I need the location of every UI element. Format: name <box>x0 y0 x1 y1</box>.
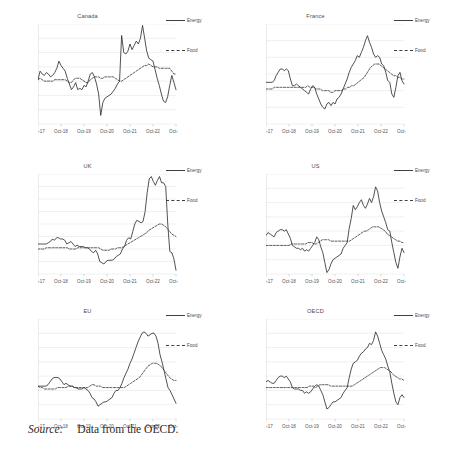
legend-solid-line-icon <box>166 315 185 316</box>
x-axis-tick-label: Oct-17 <box>266 424 273 429</box>
series-line-food <box>266 368 404 388</box>
x-axis-tick-label: Oct-23 <box>169 129 178 134</box>
legend-label-food: Food <box>415 198 425 203</box>
x-axis-tick-label: Oct-23 <box>169 279 178 284</box>
chart-title: UK <box>0 163 175 169</box>
x-axis-tick-label: Oct-17 <box>266 279 273 284</box>
legend-dashed-line-icon <box>394 345 413 346</box>
chart-panel-eu: EU 50403020100-10-20Oct-17Oct-18Oct-19Oc… <box>0 295 228 410</box>
legend-dashed-line-icon <box>394 50 413 51</box>
x-axis-tick-label: Oct-19 <box>305 424 319 429</box>
x-axis-tick-label: Oct-18 <box>54 129 68 134</box>
x-axis-tick-label: Oct-23 <box>397 129 406 134</box>
x-axis-tick-label: Oct-23 <box>397 424 406 429</box>
x-axis-tick-label: Oct-23 <box>397 279 406 284</box>
x-axis-tick-label: Oct-20 <box>328 129 342 134</box>
legend-solid-line-icon <box>394 20 413 21</box>
chart-svg: 6050403020100-10-20Oct-17Oct-18Oct-19Oct… <box>38 174 178 288</box>
chart-legend-uk: Energy Food <box>166 166 224 226</box>
legend-item-food: Food <box>166 196 224 205</box>
legend-item-energy: Energy <box>166 311 224 320</box>
x-axis-tick-label: Oct-22 <box>146 129 160 134</box>
x-axis-tick-label: Oct-19 <box>77 279 91 284</box>
plot-area-uk: 6050403020100-10-20Oct-17Oct-18Oct-19Oct… <box>38 174 178 288</box>
x-axis-tick-label: Oct-21 <box>351 279 365 284</box>
legend-item-food: Food <box>394 196 452 205</box>
legend-dashed-line-icon <box>166 200 185 201</box>
legend-item-food: Food <box>394 341 452 350</box>
legend-item-energy: Energy <box>166 166 224 175</box>
legend-label-food: Food <box>187 48 197 53</box>
x-axis-tick-label: Oct-18 <box>282 279 296 284</box>
legend-solid-line-icon <box>394 315 413 316</box>
chart-svg: 50403020100-10-20Oct-17Oct-18Oct-19Oct-2… <box>38 319 178 433</box>
plot-area-france: 403020100-10-20Oct-17Oct-18Oct-19Oct-20O… <box>266 24 406 138</box>
legend-dashed-line-icon <box>166 345 185 346</box>
x-axis-tick-label: Oct-18 <box>282 129 296 134</box>
chart-legend-canada: Energy Food <box>166 16 224 76</box>
plot-area-us: 50403020100-10-20Oct-17Oct-18Oct-19Oct-2… <box>266 174 406 288</box>
chart-panel-canada: Canada 403020100-10-20-30Oct-17Oct-18Oct… <box>0 0 228 150</box>
series-line-food <box>266 64 404 92</box>
legend-solid-line-icon <box>166 170 185 171</box>
legend-dashed-line-icon <box>166 50 185 51</box>
chart-title: EU <box>0 308 175 314</box>
x-axis-tick-label: Oct-21 <box>123 129 137 134</box>
chart-panel-oecd: OECD 50403020100-10-20Oct-17Oct-18Oct-19… <box>228 295 456 410</box>
series-line-energy <box>266 36 404 109</box>
x-axis-tick-label: Oct-19 <box>305 129 319 134</box>
chart-panel-us: US 50403020100-10-20Oct-17Oct-18Oct-19Oc… <box>228 150 456 295</box>
x-axis-tick-label: Oct-22 <box>374 424 388 429</box>
x-axis-tick-label: Oct-20 <box>328 279 342 284</box>
chart-title: US <box>228 163 403 169</box>
plot-area-oecd: 50403020100-10-20Oct-17Oct-18Oct-19Oct-2… <box>266 319 406 433</box>
x-axis-tick-label: Oct-18 <box>282 424 296 429</box>
chart-svg: 403020100-10-20Oct-17Oct-18Oct-19Oct-20O… <box>266 24 406 138</box>
x-axis-tick-label: Oct-21 <box>123 279 137 284</box>
source-text: Data from the OECD. <box>77 423 178 435</box>
series-line-energy <box>38 25 176 115</box>
legend-item-energy: Energy <box>394 16 452 25</box>
legend-label-food: Food <box>415 48 425 53</box>
plot-area-canada: 403020100-10-20-30Oct-17Oct-18Oct-19Oct-… <box>38 24 178 138</box>
chart-title: France <box>228 13 403 19</box>
x-axis-tick-label: Oct-22 <box>374 279 388 284</box>
chart-panel-france: France 403020100-10-20Oct-17Oct-18Oct-19… <box>228 0 456 150</box>
legend-item-energy: Energy <box>394 311 452 320</box>
x-axis-tick-label: Oct-17 <box>38 279 45 284</box>
legend-label-energy: Energy <box>187 18 202 23</box>
x-axis-tick-label: Oct-19 <box>77 129 91 134</box>
source-label: Source: <box>28 423 63 435</box>
source-note: Source: Data from the OECD. <box>28 423 178 435</box>
legend-solid-line-icon <box>394 170 413 171</box>
x-axis-tick-label: Oct-21 <box>351 129 365 134</box>
chart-legend-oecd: Energy Food <box>394 311 452 371</box>
chart-svg: 50403020100-10-20Oct-17Oct-18Oct-19Oct-2… <box>266 319 406 433</box>
legend-item-food: Food <box>166 341 224 350</box>
x-axis-tick-label: Oct-20 <box>328 424 342 429</box>
legend-label-energy: Energy <box>187 168 202 173</box>
legend-label-food: Food <box>187 198 197 203</box>
legend-label-food: Food <box>187 343 197 348</box>
legend-item-energy: Energy <box>166 16 224 25</box>
legend-dashed-line-icon <box>394 200 413 201</box>
chart-svg: 50403020100-10-20Oct-17Oct-18Oct-19Oct-2… <box>266 174 406 288</box>
legend-label-energy: Energy <box>415 313 430 318</box>
inflation-panel-figure: Canada 403020100-10-20-30Oct-17Oct-18Oct… <box>0 0 456 453</box>
plot-area-eu: 50403020100-10-20Oct-17Oct-18Oct-19Oct-2… <box>38 319 178 433</box>
chart-legend-us: Energy Food <box>394 166 452 226</box>
legend-label-energy: Energy <box>415 18 430 23</box>
legend-item-energy: Energy <box>394 166 452 175</box>
legend-label-energy: Energy <box>187 313 202 318</box>
series-line-energy <box>38 332 176 406</box>
x-axis-tick-label: Oct-20 <box>100 279 114 284</box>
x-axis-tick-label: Oct-22 <box>146 279 160 284</box>
x-axis-tick-label: Oct-20 <box>100 129 114 134</box>
legend-label-energy: Energy <box>415 168 430 173</box>
legend-item-food: Food <box>394 46 452 55</box>
chart-legend-eu: Energy Food <box>166 311 224 371</box>
chart-title: OECD <box>228 308 403 314</box>
series-line-energy <box>38 177 176 271</box>
chart-svg: 403020100-10-20-30Oct-17Oct-18Oct-19Oct-… <box>38 24 178 138</box>
x-axis-tick-label: Oct-17 <box>266 129 273 134</box>
